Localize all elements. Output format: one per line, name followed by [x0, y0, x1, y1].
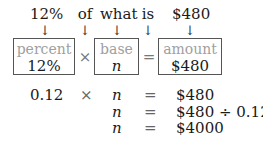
equation-variable: n — [112, 104, 122, 120]
base-value: n — [95, 58, 138, 74]
base-box: base n — [94, 38, 139, 75]
amount-box: amount $480 — [158, 38, 222, 75]
base-label: base — [95, 41, 138, 57]
percent-box: percent 12% — [13, 38, 75, 75]
equation-variable: n — [112, 87, 122, 103]
times-operator: × — [78, 49, 92, 65]
percent-label: percent — [14, 41, 74, 57]
word-amount-value: $480 — [172, 6, 208, 22]
word-percent-value: 12% — [30, 6, 60, 22]
down-arrow-icon: ↓ — [110, 24, 124, 37]
word-what: what — [100, 6, 134, 22]
percent-value: 12% — [14, 58, 74, 74]
down-arrow-icon: ↓ — [183, 24, 197, 37]
equation-right: $4000 — [176, 120, 224, 136]
down-arrow-icon: ↓ — [78, 24, 92, 37]
equals-operator: = — [142, 49, 156, 65]
down-arrow-icon: ↓ — [38, 24, 52, 37]
equation-equals: = — [144, 87, 157, 103]
equation-equals: = — [144, 104, 157, 120]
word-is: is — [140, 6, 156, 22]
equation-right: $480 ÷ 0.12 — [176, 104, 263, 120]
equation-left: 0.12 — [30, 87, 63, 103]
equation-right: $480 — [176, 87, 214, 103]
amount-value: $480 — [159, 58, 221, 74]
equation-times: × — [80, 87, 93, 103]
word-of: of — [76, 6, 94, 22]
equation-equals: = — [144, 120, 157, 136]
down-arrow-icon: ↓ — [141, 24, 155, 37]
equation-variable: n — [112, 120, 122, 136]
amount-label: amount — [159, 41, 221, 57]
